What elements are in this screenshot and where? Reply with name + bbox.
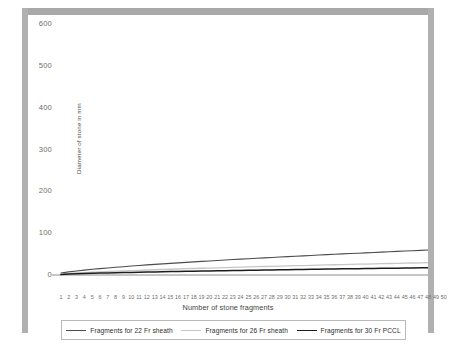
legend-label: Fragments for 30 Fr PCCL: [321, 327, 401, 334]
frame-right-rule: [428, 8, 434, 333]
legend-swatch-icon: [181, 330, 201, 331]
y-tick-label: 300: [22, 145, 52, 154]
series-line: [61, 249, 428, 273]
series-lines: [61, 249, 428, 274]
y-tick-label: 200: [22, 186, 52, 195]
frame-top-rule: [22, 8, 434, 15]
y-tick-label: 600: [22, 19, 52, 28]
legend-item[interactable]: Fragments for 26 Fr sheath: [179, 327, 290, 334]
legend-swatch-icon: [66, 330, 86, 331]
y-tick-label: 500: [22, 61, 52, 70]
x-tick-label: 50: [440, 292, 448, 304]
chart-svg: [28, 15, 428, 290]
legend-item[interactable]: Fragments for 30 Fr PCCL: [295, 327, 403, 334]
legend-swatch-icon: [297, 330, 317, 331]
y-tick-label: 400: [22, 103, 52, 112]
x-tick-label: 49: [432, 292, 440, 304]
figure-frame: Diameter of stone in mm 0100200300400500…: [0, 0, 452, 346]
legend-label: Fragments for 26 Fr sheath: [205, 327, 288, 334]
legend-item[interactable]: Fragments for 22 Fr sheath: [64, 327, 175, 334]
y-tick-label: 0: [22, 270, 52, 279]
legend-label: Fragments for 22 Fr sheath: [90, 327, 173, 334]
y-tick-label: 100: [22, 228, 52, 237]
plot-card: Diameter of stone in mm 0100200300400500…: [28, 15, 428, 333]
chart-legend: Fragments for 22 Fr sheathFragments for …: [61, 320, 406, 340]
x-axis-title: Number of stone fragments: [28, 303, 428, 312]
chart-plot-area: 0100200300400500600: [28, 15, 428, 290]
